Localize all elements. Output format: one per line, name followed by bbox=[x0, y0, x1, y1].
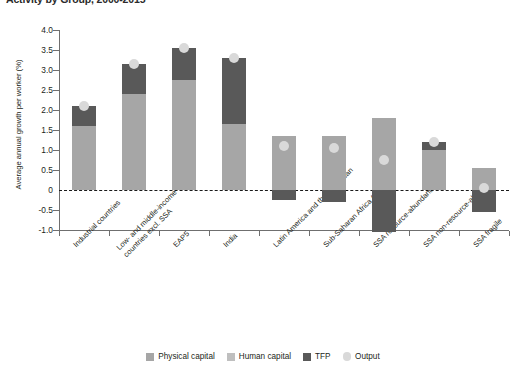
output-marker bbox=[229, 53, 239, 63]
y-tick-label: 3.5 bbox=[15, 45, 53, 55]
bar-segment[interactable] bbox=[472, 190, 496, 212]
bar-group[interactable] bbox=[122, 0, 146, 381]
bar-segment[interactable] bbox=[222, 124, 246, 190]
bar-segment[interactable] bbox=[322, 190, 346, 202]
legend-swatch-icon bbox=[146, 353, 154, 361]
x-tick-mark bbox=[359, 231, 360, 236]
bar-segment[interactable] bbox=[172, 80, 196, 190]
bar-segment[interactable] bbox=[422, 150, 446, 190]
y-tick-label: -1.0 bbox=[15, 225, 53, 235]
y-tick-label: 1.0 bbox=[15, 145, 53, 155]
bar-segment[interactable] bbox=[372, 118, 396, 190]
x-tick-mark bbox=[509, 231, 510, 236]
output-marker bbox=[129, 59, 139, 69]
y-tick-label: 2.5 bbox=[15, 85, 53, 95]
bar-segment[interactable] bbox=[372, 190, 396, 232]
bar-segment[interactable] bbox=[122, 94, 146, 190]
bar-group[interactable] bbox=[322, 0, 346, 381]
y-tick-label: 3.0 bbox=[15, 65, 53, 75]
bar-group[interactable] bbox=[422, 0, 446, 381]
bar-group[interactable] bbox=[272, 0, 296, 381]
y-tick-label: 2.0 bbox=[15, 105, 53, 115]
y-tick-label: 1.5 bbox=[15, 125, 53, 135]
y-tick-label: -0.5 bbox=[15, 205, 53, 215]
output-marker bbox=[279, 141, 289, 151]
bar-segment[interactable] bbox=[72, 126, 96, 190]
y-axis-tick-labels: 4.03.53.02.52.01.51.00.50-0.5-1.0 bbox=[8, 0, 53, 381]
output-marker bbox=[179, 43, 189, 53]
output-marker bbox=[79, 101, 89, 111]
x-tick-mark bbox=[159, 231, 160, 236]
output-marker bbox=[329, 143, 339, 153]
x-tick-mark bbox=[59, 231, 60, 236]
x-tick-mark bbox=[259, 231, 260, 236]
legend-swatch-icon bbox=[303, 353, 311, 361]
bar-segment[interactable] bbox=[222, 58, 246, 124]
y-tick-label: 0.5 bbox=[15, 165, 53, 175]
output-marker bbox=[479, 183, 489, 193]
y-tick-label: 4.0 bbox=[15, 25, 53, 35]
x-tick-mark bbox=[309, 231, 310, 236]
output-marker bbox=[379, 155, 389, 165]
bar-group[interactable] bbox=[72, 0, 96, 381]
y-tick-label: 0 bbox=[15, 185, 53, 195]
output-marker bbox=[429, 137, 439, 147]
x-tick-mark bbox=[209, 231, 210, 236]
x-tick-mark bbox=[409, 231, 410, 236]
bar-group[interactable] bbox=[372, 0, 396, 381]
bar-group[interactable] bbox=[172, 0, 196, 381]
x-tick-mark bbox=[459, 231, 460, 236]
x-tick-mark bbox=[109, 231, 110, 236]
bar-segment[interactable] bbox=[272, 190, 296, 200]
